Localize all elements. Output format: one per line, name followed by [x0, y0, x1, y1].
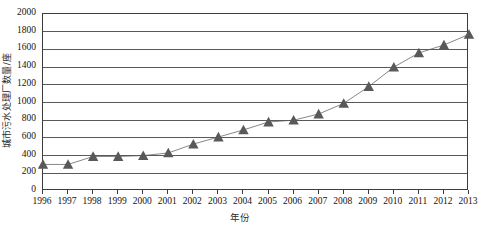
x-axis-tick	[268, 190, 269, 194]
x-axis-tick	[92, 190, 93, 194]
gridline	[43, 84, 467, 85]
plot-area	[42, 13, 468, 190]
gridline	[43, 120, 467, 121]
x-axis-tick	[368, 190, 369, 194]
y-axis-tick-label: 2000	[0, 8, 36, 18]
x-axis-tick	[67, 190, 68, 194]
y-axis-tick-label: 400	[0, 150, 36, 160]
x-axis-tick	[217, 190, 218, 194]
x-axis-tick	[468, 190, 469, 194]
y-axis-tick-label: 200	[0, 167, 36, 177]
y-axis-tick-label: 1400	[0, 61, 36, 71]
x-axis-tick	[343, 190, 344, 194]
gridline	[43, 137, 467, 138]
x-axis-tick	[142, 190, 143, 194]
data-point-marker	[313, 109, 323, 119]
series-markers	[38, 29, 474, 169]
gridline	[43, 155, 467, 156]
x-axis-tick	[192, 190, 193, 194]
x-axis-tick	[318, 190, 319, 194]
x-axis-tick	[42, 190, 43, 194]
x-axis-tick	[418, 190, 419, 194]
x-axis-tick	[242, 190, 243, 194]
y-axis-tick-label: 1200	[0, 79, 36, 89]
x-axis-title: 年份	[0, 210, 479, 224]
y-axis-tick-label: 800	[0, 114, 36, 124]
data-point-marker	[188, 139, 198, 149]
x-axis-tick	[117, 190, 118, 194]
data-point-marker	[238, 125, 248, 135]
y-axis-tick-label: 1600	[0, 43, 36, 53]
y-axis-tick-label: 0	[0, 185, 36, 195]
y-axis-tick-label: 600	[0, 132, 36, 142]
x-axis-tick-label: 2013	[448, 196, 479, 207]
gridline	[43, 102, 467, 103]
chart-figure: 城市污水处理厂数量/座 0200400600800100012001400160…	[0, 0, 479, 237]
series-line	[43, 34, 469, 164]
x-axis-tick	[293, 190, 294, 194]
x-axis-tick-labels: 1996199719981999200020012002200320042005…	[0, 196, 479, 210]
y-axis-tick-label: 1000	[0, 97, 36, 107]
gridline	[43, 67, 467, 68]
gridline	[43, 31, 467, 32]
x-axis-tick	[393, 190, 394, 194]
y-axis-tick-label: 1800	[0, 26, 36, 36]
x-axis-tick	[167, 190, 168, 194]
gridline	[43, 49, 467, 50]
x-axis-tick	[443, 190, 444, 194]
data-point-marker	[364, 81, 374, 91]
gridline	[43, 173, 467, 174]
